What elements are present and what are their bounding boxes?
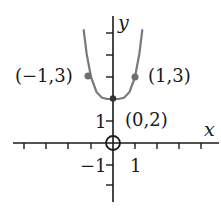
point-1-3 [132, 74, 139, 81]
coordinate-graph: y x (−1,3) (1,3) (0,2) 1 −1 1 [0, 0, 221, 216]
point-label-1-3: (1,3) [148, 65, 191, 86]
point-neg1-3 [85, 73, 92, 80]
x-tick-label-1: 1 [130, 155, 141, 176]
point-label-0-2: (0,2) [125, 109, 168, 130]
y-tick-label-1: 1 [95, 111, 106, 132]
x-axis-label: x [204, 118, 215, 140]
point-label-neg1-3: (−1,3) [15, 65, 73, 86]
x-tick-label-neg1: −1 [80, 155, 107, 176]
y-axis-label: y [117, 11, 129, 33]
point-0-2 [110, 95, 116, 101]
y-axis-ticks [106, 33, 113, 185]
